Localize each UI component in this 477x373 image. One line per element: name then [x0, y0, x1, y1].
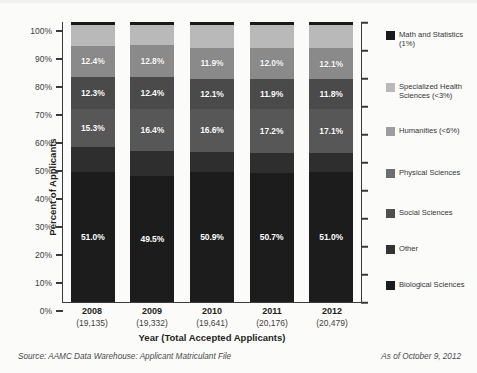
y-tick-mark [361, 106, 368, 108]
bar-stack[interactable]: 12.4%12.3%15.3%51.0% [71, 22, 115, 302]
bar-segment-label: 12.1% [319, 59, 343, 69]
y-tick: 10% [35, 278, 63, 288]
x-axis-tick: 2012(20,479) [302, 305, 362, 329]
y-tick-label: 90% [35, 54, 52, 64]
footer-divider [16, 347, 461, 348]
bar-segment[interactable]: 17.2% [250, 109, 294, 153]
bar-segment[interactable]: 11.9% [250, 79, 294, 109]
y-tick: 0% [40, 306, 63, 316]
y-tick-right [361, 246, 368, 248]
bar-segment-label: 17.2% [260, 126, 284, 136]
legend-item[interactable]: Specialized Health Sciences (<3%) [386, 82, 471, 101]
legend-label: Other [399, 244, 418, 253]
y-tick-mark [56, 254, 63, 256]
x-axis-count: (20,176) [242, 317, 302, 329]
bar-segment-label: 17.1% [319, 126, 343, 136]
x-axis-year: 2010 [182, 305, 242, 317]
legend-item[interactable]: Biological Sciences [386, 280, 464, 290]
x-axis-count: (19,332) [122, 317, 182, 329]
y-tick-mark [361, 274, 368, 276]
bar-stack[interactable]: 12.8%12.4%16.4%49.5% [130, 22, 174, 302]
bar-segment[interactable]: 50.7% [250, 173, 294, 302]
y-tick-mark [56, 198, 63, 200]
bar-segment[interactable]: 12.8% [130, 45, 174, 78]
y-tick: 30% [35, 222, 63, 232]
y-tick-mark [56, 170, 63, 172]
legend-item[interactable]: Social Sciences [386, 208, 453, 218]
x-axis-year: 2011 [242, 305, 302, 317]
y-tick-mark [56, 142, 63, 144]
x-axis-tick: 2010(19,641) [182, 305, 242, 329]
bar-segment[interactable] [190, 152, 234, 173]
y-tick-right [361, 134, 368, 136]
bar-segment[interactable] [309, 153, 353, 173]
bar-segment[interactable]: 16.4% [130, 109, 174, 151]
y-tick-mark [361, 78, 368, 80]
x-axis-tick: 2009(19,332) [122, 305, 182, 329]
y-tick-right [361, 302, 368, 304]
bar-stack[interactable]: 12.1%11.8%17.1%51.0% [309, 22, 353, 302]
y-tick-mark [56, 114, 63, 116]
y-tick: 90% [35, 54, 63, 64]
y-tick-mark [361, 218, 368, 220]
bar-segment[interactable]: 49.5% [130, 176, 174, 302]
bar-group: 12.4%12.3%15.3%51.0%12.8%12.4%16.4%49.5%… [63, 22, 361, 302]
bar-segment[interactable]: 51.0% [309, 172, 353, 302]
y-tick: 20% [35, 250, 63, 260]
bar-segment-label: 11.8% [320, 89, 343, 99]
bar-segment[interactable]: 12.3% [71, 77, 115, 108]
legend-item[interactable]: Humanities (<6%) [386, 126, 460, 136]
legend-swatch [386, 127, 395, 136]
bar-segment[interactable] [309, 25, 353, 49]
bar-segment[interactable]: 17.1% [309, 109, 353, 153]
x-axis-count: (19,135) [62, 317, 122, 329]
y-tick-label: 10% [35, 278, 52, 288]
y-tick-mark [361, 134, 368, 136]
bar-segment[interactable]: 12.1% [309, 48, 353, 79]
y-tick-right [361, 190, 368, 192]
bar-segment[interactable] [250, 153, 294, 173]
y-tick-label: 70% [35, 110, 52, 120]
bar-segment-label: 12.8% [141, 56, 165, 66]
y-tick-mark [56, 226, 63, 228]
bar-stack[interactable]: 12.0%11.9%17.2%50.7% [250, 22, 294, 302]
bar-segment-label: 50.9% [200, 232, 224, 242]
legend-item[interactable]: Physical Sciences [386, 168, 460, 178]
x-axis-count: (19,641) [182, 317, 242, 329]
y-tick-label: 40% [35, 194, 52, 204]
bar-segment[interactable] [71, 147, 115, 172]
bar-segment[interactable]: 51.0% [71, 172, 115, 302]
bar-segment[interactable]: 16.6% [190, 109, 234, 151]
bar-segment[interactable]: 12.4% [130, 77, 174, 109]
bar-segment[interactable] [71, 25, 115, 46]
bar-segment[interactable] [250, 25, 294, 48]
bar-segment[interactable]: 11.9% [190, 48, 234, 78]
bar-segment[interactable] [130, 151, 174, 176]
bar-segment-label: 11.9% [200, 58, 223, 68]
as-of-note: As of October 9, 2012 [381, 352, 461, 361]
y-tick-mark [361, 50, 368, 52]
y-tick-label: 100% [30, 26, 52, 36]
bar-stack[interactable]: 11.9%12.1%16.6%50.9% [190, 22, 234, 302]
y-tick: 70% [35, 110, 63, 120]
x-axis-year: 2009 [122, 305, 182, 317]
y-tick-mark [56, 282, 63, 284]
legend-item[interactable]: Other [386, 244, 418, 254]
bar-segment[interactable] [130, 25, 174, 45]
legend-swatch [386, 281, 395, 290]
y-tick-label: 60% [35, 138, 52, 148]
legend-item[interactable]: Math and Statistics (1%) [386, 30, 471, 49]
bar-segment[interactable]: 15.3% [71, 109, 115, 148]
x-axis-count: (20,479) [302, 317, 362, 329]
y-tick-mark [361, 246, 368, 248]
y-tick-label: 0% [40, 306, 52, 316]
y-tick-right [361, 78, 368, 80]
bar-segment[interactable]: 50.9% [190, 172, 234, 302]
bar-segment[interactable]: 12.4% [71, 46, 115, 78]
bar-segment[interactable]: 12.1% [190, 79, 234, 110]
bar-segment[interactable]: 12.0% [250, 48, 294, 79]
y-tick-label: 30% [35, 222, 52, 232]
x-axis-labels: 2008(19,135)2009(19,332)2010(19,641)2011… [62, 305, 362, 329]
bar-segment[interactable]: 11.8% [309, 79, 353, 109]
bar-segment[interactable] [190, 25, 234, 49]
